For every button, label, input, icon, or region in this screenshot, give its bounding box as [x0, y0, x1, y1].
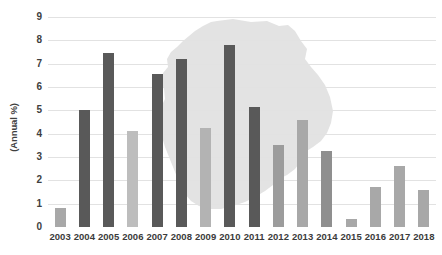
bar: [370, 187, 381, 227]
x-tick-label: 2015: [341, 231, 362, 243]
y-tick-label: 1: [36, 199, 42, 209]
bar: [273, 145, 284, 227]
bar: [55, 208, 66, 227]
x-axis-tick-labels: 2003200420052006200720082009201020112012…: [48, 231, 436, 251]
x-tick-label: 2018: [413, 231, 434, 243]
bar: [418, 190, 429, 227]
plot-area: [48, 17, 436, 227]
x-tick-label: 2005: [98, 231, 119, 243]
x-tick-label: 2011: [244, 231, 265, 243]
bar: [346, 219, 357, 227]
x-tick-label: 2007: [147, 231, 168, 243]
x-tick-label: 2003: [50, 231, 71, 243]
y-tick-label: 5: [36, 105, 42, 115]
y-tick-label: 8: [36, 35, 42, 45]
bar: [297, 120, 308, 227]
bar: [152, 74, 163, 227]
bar-chart: (Annual %) 0123456789 200320042005200620…: [0, 0, 442, 255]
x-tick-label: 2012: [268, 231, 289, 243]
bar: [321, 151, 332, 227]
bar: [79, 110, 90, 227]
x-tick-label: 2010: [219, 231, 240, 243]
y-tick-label: 4: [36, 129, 42, 139]
x-tick-label: 2008: [171, 231, 192, 243]
x-tick-label: 2006: [122, 231, 143, 243]
x-tick-label: 2017: [389, 231, 410, 243]
bar: [394, 166, 405, 227]
bar: [200, 128, 211, 227]
x-tick-label: 2014: [316, 231, 337, 243]
y-axis-title: (Annual %): [0, 0, 26, 255]
bars-group: [48, 17, 436, 227]
y-tick-label: 0: [36, 222, 42, 232]
bar: [127, 131, 138, 227]
bar: [224, 45, 235, 227]
bar: [103, 53, 114, 227]
y-tick-label: 3: [36, 152, 42, 162]
y-tick-label: 9: [36, 12, 42, 22]
y-tick-label: 7: [36, 59, 42, 69]
x-tick-label: 2013: [292, 231, 313, 243]
y-axis-tick-labels: 0123456789: [26, 17, 42, 227]
x-tick-label: 2004: [74, 231, 95, 243]
bar: [176, 59, 187, 227]
y-tick-label: 6: [36, 82, 42, 92]
x-tick-label: 2016: [365, 231, 386, 243]
x-tick-label: 2009: [195, 231, 216, 243]
bar: [249, 107, 260, 227]
y-tick-label: 2: [36, 175, 42, 185]
